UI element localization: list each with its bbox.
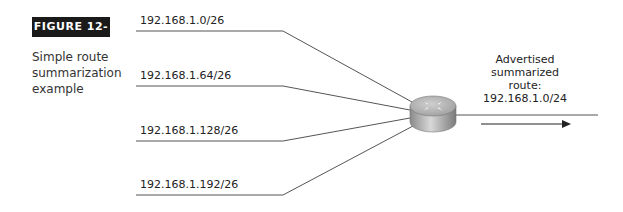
- subnet-link-1: [136, 31, 412, 102]
- direction-arrow-head: [562, 120, 571, 128]
- subnet-link-4: [136, 126, 413, 195]
- subnet-link-2: [136, 86, 410, 110]
- subnet-link-3: [136, 118, 410, 141]
- router-icon: [410, 96, 456, 132]
- network-diagram: [0, 0, 623, 212]
